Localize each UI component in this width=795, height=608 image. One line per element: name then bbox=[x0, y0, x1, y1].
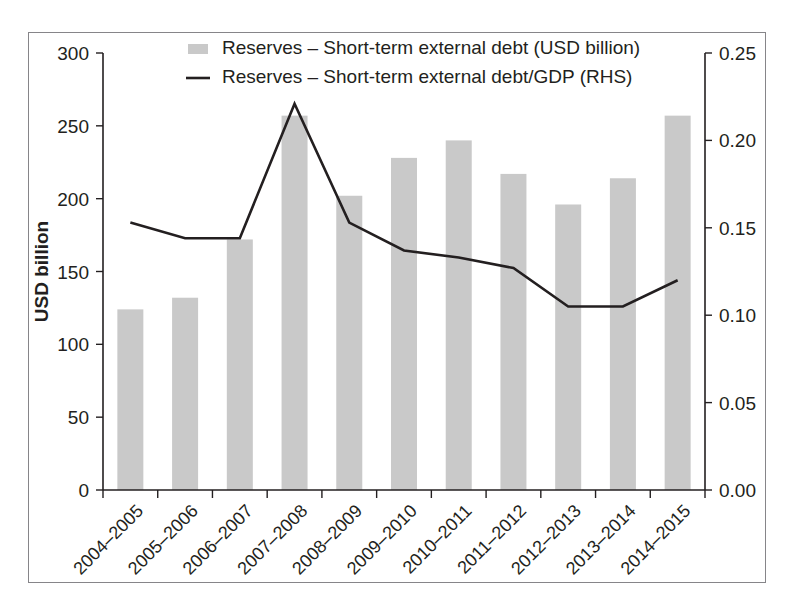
legend-label: Reserves – Short-term external debt/GDP … bbox=[222, 66, 632, 87]
y-tick-label-left: 250 bbox=[57, 116, 89, 137]
bar-2005–2006 bbox=[172, 298, 198, 490]
figure-container: 0501001502002503000.000.050.100.150.200.… bbox=[0, 0, 795, 608]
y-axis-title: USD billion bbox=[31, 221, 52, 322]
chart-canvas: 0501001502002503000.000.050.100.150.200.… bbox=[0, 0, 795, 608]
y-tick-label-right: 0.25 bbox=[719, 43, 756, 64]
y-tick-label-right: 0.20 bbox=[719, 130, 756, 151]
bar-2007–2008 bbox=[282, 116, 308, 490]
bar-series-group bbox=[117, 116, 690, 490]
bar-2008–2009 bbox=[336, 196, 362, 490]
bar-2011–2012 bbox=[500, 174, 526, 490]
y-tick-label-right: 0.00 bbox=[719, 480, 756, 501]
y-tick-label-right: 0.15 bbox=[719, 218, 756, 239]
bar-2010–2011 bbox=[446, 140, 472, 490]
bar-2009–2010 bbox=[391, 158, 417, 490]
legend-swatch-icon bbox=[188, 44, 208, 54]
bar-2006–2007 bbox=[227, 239, 253, 490]
bar-2004–2005 bbox=[117, 309, 143, 490]
chart-legend: Reserves – Short-term external debt (USD… bbox=[186, 37, 640, 87]
y-tick-label-right: 0.10 bbox=[719, 305, 756, 326]
bar-2014–2015 bbox=[665, 116, 691, 490]
legend-label: Reserves – Short-term external debt (USD… bbox=[222, 37, 640, 58]
y-tick-label-right: 0.05 bbox=[719, 393, 756, 414]
y-tick-label-left: 0 bbox=[78, 480, 89, 501]
y-tick-label-left: 150 bbox=[57, 262, 89, 283]
bar-2013–2014 bbox=[610, 178, 636, 490]
bar-2012–2013 bbox=[555, 204, 581, 490]
y-tick-label-left: 200 bbox=[57, 189, 89, 210]
y-tick-label-left: 300 bbox=[57, 43, 89, 64]
y-tick-label-left: 100 bbox=[57, 334, 89, 355]
y-tick-label-left: 50 bbox=[68, 407, 89, 428]
